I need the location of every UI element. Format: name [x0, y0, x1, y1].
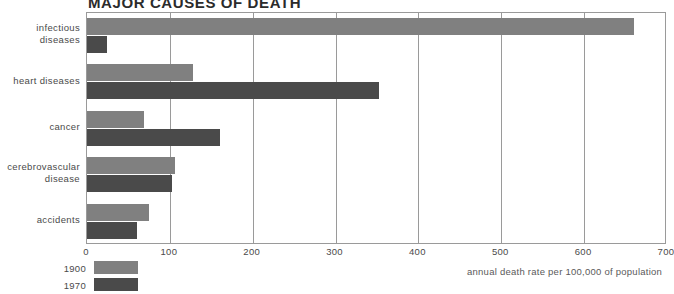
- category-label-cancer: cancer: [0, 121, 80, 133]
- x-tick-200: 200: [243, 246, 260, 257]
- chart-title: MAJOR CAUSES OF DEATH: [88, 0, 301, 11]
- category-label-line: cancer: [0, 121, 80, 133]
- category-label-cerebrovascular-disease: cerebrovasculardisease: [0, 161, 80, 185]
- bar-group: [87, 59, 665, 105]
- category-label-line: disease: [0, 173, 80, 185]
- category-label-line: heart diseases: [0, 75, 80, 87]
- x-tick-300: 300: [326, 246, 343, 257]
- x-tick-500: 500: [492, 246, 509, 257]
- x-tick-400: 400: [409, 246, 426, 257]
- bar-group: [87, 152, 665, 198]
- bar-1900-cancer: [87, 111, 144, 128]
- bar-1970-accidents: [87, 222, 137, 239]
- category-label-heart-diseases: heart diseases: [0, 75, 80, 87]
- bar-1900-infectious-diseases: [87, 18, 634, 35]
- legend-label-1900: 1900: [56, 263, 86, 274]
- category-label-line: diseases: [0, 34, 80, 46]
- category-label-line: accidents: [0, 214, 80, 226]
- x-tick-100: 100: [160, 246, 177, 257]
- legend-label-1970: 1970: [56, 280, 86, 291]
- bar-1900-accidents: [87, 204, 149, 221]
- category-label-line: cerebrovascular: [0, 161, 80, 173]
- x-tick-700: 700: [658, 246, 674, 257]
- bar-1970-cerebrovascular-disease: [87, 175, 172, 192]
- bar-group: [87, 199, 665, 245]
- category-label-line: infectious: [0, 22, 80, 34]
- bar-group: [87, 106, 665, 152]
- legend-swatch-1970: [94, 278, 138, 291]
- bar-1970-infectious-diseases: [87, 36, 107, 53]
- bar-1900-heart-diseases: [87, 64, 193, 81]
- bar-group: [87, 13, 665, 59]
- category-label-infectious-diseases: infectiousdiseases: [0, 22, 80, 46]
- bar-1970-cancer: [87, 129, 220, 146]
- x-tick-600: 600: [575, 246, 592, 257]
- legend-swatch-1900: [94, 261, 138, 274]
- axis-note: annual death rate per 100,000 of populat…: [467, 266, 662, 277]
- category-label-accidents: accidents: [0, 214, 80, 226]
- bar-1900-cerebrovascular-disease: [87, 157, 175, 174]
- bar-1970-heart-diseases: [87, 82, 379, 99]
- x-tick-0: 0: [83, 246, 89, 257]
- plot-area: [86, 12, 666, 244]
